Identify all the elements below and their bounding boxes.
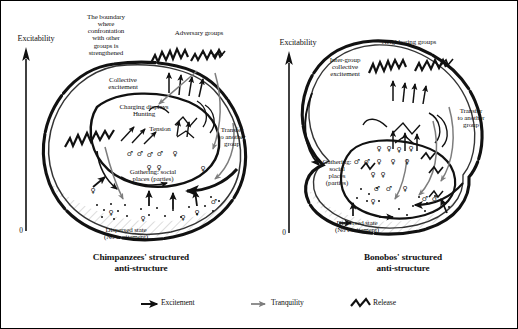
svg-text:♀: ♀ <box>370 198 375 206</box>
axis-zero-right: 0 <box>277 229 291 237</box>
label-boundary-confrontation: The boundary where confrontation with ot… <box>64 14 148 57</box>
label-adversary-groups: Adversary groups <box>151 30 247 37</box>
svg-text:♀: ♀ <box>396 146 401 154</box>
svg-text:♀: ♀ <box>90 187 95 195</box>
svg-text:♂: ♂ <box>127 150 133 158</box>
label-tension: Tension <box>127 126 193 133</box>
svg-text:♀: ♀ <box>380 171 385 179</box>
label-dispersed-state-right: Dispersed state (No excitement) <box>314 220 400 234</box>
axis-zero-left: 0 <box>14 227 28 235</box>
caption-bonobos: Bonobos' structured anti-structure <box>319 252 487 274</box>
svg-text:♂: ♂ <box>422 195 428 203</box>
label-charging-displays-hunting: Charging displays Hunting <box>97 104 191 118</box>
caption-chimpanzees: Chimpanzees' structured anti-structure <box>57 252 225 274</box>
legend-label-excitement: Excitement <box>161 299 231 307</box>
svg-text:♀: ♀ <box>194 209 199 217</box>
svg-text:♂: ♂ <box>374 185 380 193</box>
label-transfer-to-another-group-left: Transfer to another group <box>206 127 258 148</box>
svg-text:♂: ♂ <box>364 158 370 166</box>
label-collective-excitement: Collective excitement <box>86 77 160 91</box>
svg-text:♀: ♀ <box>140 215 145 223</box>
svg-text:♀: ♀ <box>108 209 113 217</box>
svg-text:♂: ♂ <box>386 185 392 193</box>
svg-text:♂: ♂ <box>211 198 217 206</box>
svg-text:♀: ♀ <box>180 214 185 222</box>
svg-text:♀: ♀ <box>376 145 381 153</box>
legend-label-tranquility: Tranquility <box>271 299 341 307</box>
svg-text:♀: ♀ <box>408 145 413 153</box>
svg-text:♀: ♀ <box>200 165 205 173</box>
svg-text:♀: ♀ <box>402 185 407 193</box>
figure-panel: ♂♂ ♂♂ ♀ ♀♀ ♀ ♀ ♀♀ ♀♀ ♂ <box>0 0 518 329</box>
label-transfer-to-another-group-right: Transfer to another group <box>445 108 497 129</box>
svg-text:♀: ♀ <box>404 158 409 166</box>
svg-text:♀: ♀ <box>386 145 391 153</box>
svg-text:♀: ♀ <box>370 171 375 179</box>
svg-text:♂: ♂ <box>147 151 153 159</box>
svg-text:♀: ♀ <box>390 158 395 166</box>
svg-text:♂: ♂ <box>157 150 163 158</box>
axis-label-excitability-left: Excitability <box>3 35 69 43</box>
label-gathering-social-places-right: Gathering: social places (parties) <box>311 159 363 188</box>
label-inter-group-collective-excitement: Inter-group collective excitement <box>312 57 378 78</box>
legend-label-release: Release <box>373 299 443 307</box>
label-dispersed-state-left: Dispersed state (No excitement) <box>83 227 169 241</box>
axis-label-excitability-right: Excitability <box>265 39 331 47</box>
svg-text:♂: ♂ <box>432 195 438 203</box>
svg-text:♀: ♀ <box>376 158 381 166</box>
svg-text:♀: ♀ <box>172 150 177 158</box>
label-gathering-social-places-left: Gathering: social places (parties) <box>107 169 199 183</box>
label-neighboring-groups: Neighboring groups <box>357 39 461 46</box>
svg-text:♂: ♂ <box>137 150 143 158</box>
